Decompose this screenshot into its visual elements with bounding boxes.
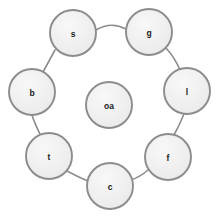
node-circle-l[interactable] (164, 68, 210, 114)
graph-edge-s-g (96, 25, 126, 30)
node-circle-f[interactable] (145, 134, 191, 180)
graph-node-g[interactable]: g (126, 9, 172, 55)
graph-node-t[interactable]: t (26, 133, 72, 179)
node-layer: sglfctboa (9, 9, 210, 209)
graph-node-c[interactable]: c (87, 163, 133, 209)
node-circle-c[interactable] (87, 163, 133, 209)
graph-diagram: sglfctboa (0, 0, 221, 219)
node-circle-oa[interactable] (86, 82, 132, 128)
graph-edge-t-b (32, 115, 40, 134)
graph-edge-l-f (174, 114, 184, 135)
graph-node-f[interactable]: f (145, 134, 191, 180)
graph-edge-f-c (131, 170, 148, 180)
graph-edge-g-l (166, 48, 180, 70)
graph-node-s[interactable]: s (50, 10, 96, 56)
node-circle-g[interactable] (126, 9, 172, 55)
graph-canvas: sglfctboa (0, 0, 221, 219)
graph-node-l[interactable]: l (164, 68, 210, 114)
graph-edge-c-t (67, 171, 88, 181)
graph-node-b[interactable]: b (9, 69, 55, 115)
graph-edge-b-s (43, 50, 55, 72)
node-circle-b[interactable] (9, 69, 55, 115)
graph-node-oa[interactable]: oa (86, 82, 132, 128)
node-circle-t[interactable] (26, 133, 72, 179)
node-circle-s[interactable] (50, 10, 96, 56)
